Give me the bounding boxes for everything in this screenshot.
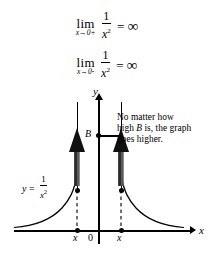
curve-equation-label: y = 1 x2: [22, 176, 50, 201]
y-axis-label: y: [93, 85, 98, 97]
curve-label-denominator: x2: [40, 187, 47, 200]
fraction-one-over-x-squared: 1 x2: [102, 11, 111, 40]
fraction-bar: [101, 62, 110, 63]
fraction-one-over-x-squared: 1 x2: [101, 50, 110, 79]
tick-label-right-x: x: [117, 232, 121, 243]
fraction-numerator: 1: [102, 11, 111, 22]
curve-equation-expression: y = 1 x2: [22, 176, 50, 201]
origin-label: 0: [88, 232, 93, 243]
fraction-denominator: x2: [102, 25, 111, 40]
equation-expression: lim x→0+ 1 x2 = ∞: [76, 12, 139, 41]
curve-label-fraction: 1 x2: [40, 175, 47, 200]
curve-point-left: [75, 188, 80, 193]
equation-expression: lim x→0- 1 x2 = ∞: [77, 51, 138, 80]
limit-figure: lim x→0+ 1 x2 = ∞ lim x→0- 1 x2 =: [0, 0, 214, 263]
annotation-line-3: goes higher.: [117, 134, 163, 144]
x-axis-label: x: [199, 224, 204, 236]
fraction-denominator: x2: [101, 64, 110, 79]
limit-operator: lim x→0+: [76, 17, 96, 37]
curve-label-numerator: 1: [40, 175, 47, 184]
limit-subscript: x→0-: [77, 68, 95, 76]
annotation-line-2-prefix: high: [117, 123, 136, 133]
upward-arrow-left: [69, 128, 85, 186]
curve-right-branch: [121, 176, 184, 228]
tick-label-left-x: x: [73, 232, 77, 243]
point-b-label: B: [85, 128, 91, 139]
annotation-text: No matter how high B is, the graph goes …: [117, 112, 213, 146]
denominator-exponent: 2: [107, 27, 111, 35]
fraction-bar: [102, 23, 111, 24]
curve-label-equals: =: [29, 183, 35, 194]
curve-label-lhs: y: [22, 183, 26, 194]
denominator-exponent: 2: [106, 66, 110, 74]
graph-area: B x y 0 x x y = 1 x2 No matter how high …: [0, 88, 214, 263]
curve-label-fraction-bar: [40, 185, 47, 186]
annotation-line-2-suffix: is, the graph: [142, 123, 191, 133]
equals-sign: =: [116, 59, 123, 72]
equation-limit-right: lim x→0+ 1 x2 = ∞: [0, 12, 214, 41]
limit-operator: lim x→0-: [77, 56, 95, 76]
infinity-symbol: ∞: [128, 19, 139, 34]
annotation-line-1: No matter how: [117, 112, 174, 122]
equals-sign: =: [117, 20, 124, 33]
infinity-symbol: ∞: [127, 58, 138, 73]
curve-point-right: [119, 188, 124, 193]
equation-limit-left: lim x→0- 1 x2 = ∞: [0, 51, 214, 80]
fraction-numerator: 1: [101, 50, 110, 61]
curve-denominator-exponent: 2: [44, 189, 47, 195]
limit-subscript: x→0+: [76, 29, 96, 37]
